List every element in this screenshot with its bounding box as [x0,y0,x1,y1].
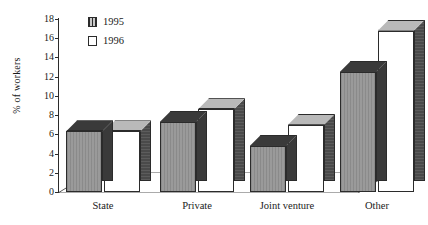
bar-side-face [414,20,425,181]
bar-front-face [160,122,196,192]
y-tick-label: 14 [30,53,54,61]
legend-label-1996: 1996 [103,36,124,46]
bar-front-face [340,72,376,192]
y-tick-mark [55,77,59,78]
y-tick-label: 0 [30,188,54,196]
y-tick-mark [55,57,59,58]
y-tick-label: 6 [30,130,54,138]
bar-side-face [324,114,335,181]
y-tick-label: 2 [30,169,54,177]
bar-side-face [196,111,207,181]
y-tick-label: 16 [30,34,54,42]
legend: 1995 1996 [88,14,124,52]
bar-1995-state [66,131,102,192]
category-label-private: Private [146,200,248,211]
bar-1995-joint-venture [250,146,286,192]
y-tick-mark [55,134,59,135]
legend-swatch-icon-1995 [88,17,97,27]
bar-side-face [234,98,245,181]
y-tick-label: 10 [30,92,54,100]
category-label-other: Other [326,200,428,211]
bar-1995-private [160,122,196,192]
category-label-joint-venture: Joint venture [236,200,338,211]
bar-front-face [250,146,286,192]
y-tick-label: 18 [30,15,54,23]
y-tick-label: 4 [30,150,54,158]
y-axis-ticks: 181614121086420 [28,0,54,225]
y-tick-mark [55,38,59,39]
y-tick-mark [55,173,59,174]
legend-swatch-icon-1996 [88,36,97,46]
category-label-state: State [52,200,154,211]
bar-front-face [66,131,102,192]
y-tick-mark [55,154,59,155]
y-tick-mark [55,96,59,97]
y-tick-mark [55,19,59,20]
legend-label-1995: 1995 [103,17,124,27]
legend-item-1996: 1996 [88,33,124,48]
y-axis-line [58,18,59,193]
legend-item-1995: 1995 [88,14,124,29]
y-tick-label: 8 [30,111,54,119]
y-tick-mark [55,192,59,193]
y-tick-label: 12 [30,73,54,81]
bar-side-face [376,61,387,181]
bar-1995-other [340,72,376,192]
y-tick-mark [55,115,59,116]
